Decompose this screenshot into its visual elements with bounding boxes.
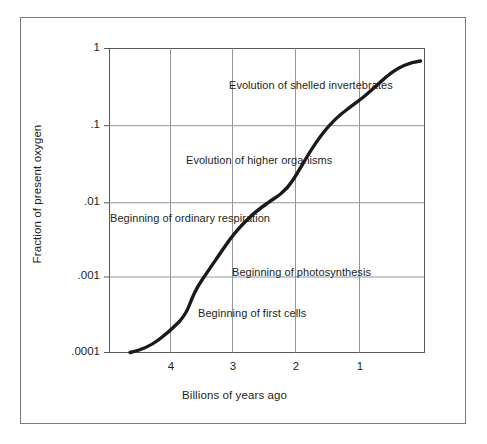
xtick-label-3: 3 (221, 360, 245, 372)
y-axis-title: Fraction of present oxygen (31, 114, 43, 274)
annotation-shelled-invertebrates: Evolution of shelled invertebrates (229, 79, 393, 91)
ytick-label-0.01: .01 (52, 195, 100, 207)
xtick-label-4: 4 (159, 360, 183, 372)
y-axis-ticks (104, 49, 110, 353)
ytick-label-0.001: .001 (52, 269, 100, 281)
annotation-first-cells: Beginning of first cells (198, 307, 306, 319)
xtick-label-1: 1 (348, 360, 372, 372)
xtick-label-2: 2 (284, 360, 308, 372)
annotation-ordinary-respiration: Beginning of ordinary respiration (110, 212, 270, 224)
ytick-label-0.1: .1 (52, 118, 100, 130)
x-axis-title: Billions of years ago (182, 389, 287, 401)
figure-screenshot: 1 .1 .01 .001 .0001 4 3 2 1 Fraction of … (0, 0, 487, 444)
horizontal-gridlines (110, 126, 425, 277)
annotation-higher-organisms: Evolution of higher organisms (186, 154, 332, 166)
ytick-label-1: 1 (52, 41, 100, 53)
ytick-label-0.0001: .0001 (52, 345, 100, 357)
annotation-photosynthesis: Beginning of photosynthesis (232, 266, 371, 278)
